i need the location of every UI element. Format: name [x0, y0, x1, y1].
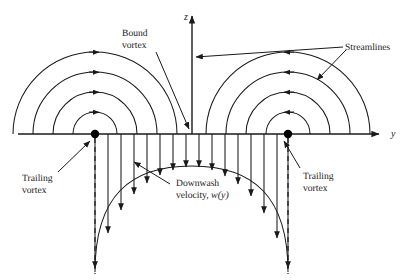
- bound-vortex-label-line2: vortex: [122, 40, 147, 51]
- streamline-arc-left-3: [53, 92, 137, 134]
- downwash-label-prefix: velocity,: [176, 190, 211, 201]
- streamline-arcs-left: [13, 52, 177, 134]
- streamline-arcs-right: [206, 52, 370, 134]
- streamline-arc-right-1: [206, 52, 370, 134]
- streamlines-label: Streamlines: [345, 42, 391, 53]
- downwash-label-symbol: w(y): [211, 190, 229, 201]
- streamlines-leader-diagonal: [317, 50, 346, 80]
- streamline-arc-left-2: [33, 72, 157, 134]
- downwash-label-line1: Downwash: [176, 178, 219, 189]
- streamline-arc-right-3: [246, 92, 330, 134]
- y-axis-label: y: [390, 128, 396, 139]
- downwash-arrows: [95, 134, 288, 268]
- left-trailing-vortex-node: [91, 130, 99, 138]
- text-labels: y z Bound vortex Streamlines Trailing vo…: [22, 11, 396, 201]
- z-axis-label: z: [183, 11, 188, 22]
- bound-vortex-leader: [156, 52, 189, 129]
- right-trailing-vortex-node: [284, 130, 292, 138]
- trailing-vortex-left-label-line2: vortex: [22, 185, 47, 196]
- streamlines-leader-horizontal: [196, 47, 343, 57]
- downwash-label-line2: velocity, w(y): [176, 190, 230, 201]
- trailing-vortex-right-leader: [284, 141, 300, 168]
- trailing-vortex-right-label-line1: Trailing: [303, 171, 334, 182]
- downwash-leader: [134, 162, 170, 184]
- leader-lines: [58, 47, 346, 184]
- trailing-vortex-left-leader: [58, 141, 90, 172]
- axes-group: [18, 16, 379, 134]
- trailing-vortex-right-label-line2: vortex: [303, 183, 328, 194]
- trailing-vortex-dashed-lines: [95, 138, 288, 274]
- streamline-arc-left-1: [13, 52, 177, 134]
- streamline-arc-right-2: [226, 72, 350, 134]
- figure-container: y z Bound vortex Streamlines Trailing vo…: [0, 0, 412, 280]
- bound-vortex-label-line1: Bound: [122, 28, 148, 39]
- vortex-diagram-svg: y z Bound vortex Streamlines Trailing vo…: [0, 0, 412, 280]
- trailing-vortex-left-label-line1: Trailing: [22, 173, 53, 184]
